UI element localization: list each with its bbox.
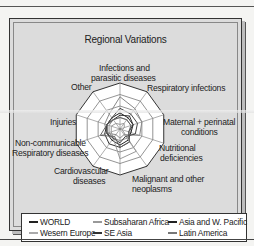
axis-label-nutritional: Nutritional: [159, 143, 196, 153]
legend-item-latam: Latin America: [168, 228, 227, 238]
top-rule: [0, 6, 254, 7]
axis-label-maternal: Maternal + perinatal: [163, 117, 235, 127]
legend-swatch: [93, 221, 102, 223]
axis-label-other: Other: [71, 82, 92, 92]
legend-item-seasia: SE Asia: [93, 228, 132, 238]
legend-label: SE Asia: [104, 228, 132, 238]
axis-label-cardiovascular-2: diseases: [73, 176, 105, 186]
chart-panel: Regional Variations Infections and paras…: [9, 18, 242, 231]
axis-label-line: Infections and: [99, 63, 150, 73]
legend-item-subsaharan: Subsaharan Africa: [93, 217, 169, 227]
legend-label: Asia and W. Pacific: [179, 217, 247, 227]
axis-label-noncommunicable: Non-communicable: [15, 138, 86, 148]
axis-label-infections: Infections and: [99, 63, 150, 73]
legend-swatch: [168, 232, 177, 234]
legend-label: WORLD: [40, 217, 70, 227]
legend-item-world: WORLD: [29, 217, 70, 227]
legend-swatch: [168, 221, 177, 223]
legend-label: Wesern Europe: [40, 228, 95, 238]
axis-label-malignant-2: neoplasms: [132, 184, 172, 194]
legend-swatch: [29, 221, 38, 223]
legend-swatch: [29, 232, 38, 234]
legend: WORLD Subsaharan Africa Asia and W. Paci…: [21, 213, 247, 242]
legend-label: Subsaharan Africa: [104, 217, 169, 227]
legend-item-europe: Wesern Europe: [29, 228, 95, 238]
axis-label-cardiovascular: Cardiovascular: [54, 166, 109, 176]
axis-label-nutritional-2: deficiencies: [160, 153, 203, 163]
legend-label: Latin America: [179, 228, 227, 238]
axis-label-noncommunicable-2: Respiratory diseases: [12, 148, 88, 158]
axis-label-injuries: Injuries: [50, 117, 76, 127]
legend-item-asia: Asia and W. Pacific: [168, 217, 247, 227]
bottom-rule: [0, 239, 254, 240]
scan-glare: [0, 110, 254, 113]
axis-label-infections-2: parasitic diseases: [91, 73, 156, 83]
axis-label-respiratory: Respiratory infections: [147, 83, 225, 93]
legend-swatch: [93, 232, 102, 234]
axis-label-malignant: Malignant and other: [132, 174, 204, 184]
axis-label-maternal-2: conditions: [181, 127, 218, 137]
